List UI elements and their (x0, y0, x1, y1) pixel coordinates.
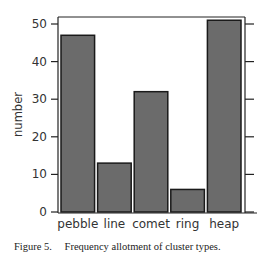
y-axis-label: number (11, 92, 25, 137)
bar-ring (171, 189, 205, 212)
bar-heap (207, 20, 241, 212)
figure-caption-text: Frequency allotment of cluster types. (65, 241, 221, 252)
bar-chart: 01020304050numberpebblelinecometringheap (0, 0, 268, 235)
x-tick-label: pebble (57, 217, 98, 231)
y-tick-label: 20 (32, 130, 47, 144)
bar-pebble (61, 35, 95, 212)
bar-comet (134, 92, 168, 212)
bar-line (98, 163, 132, 212)
x-tick-label: ring (176, 217, 200, 231)
y-tick-label: 50 (32, 17, 47, 31)
y-tick-label: 0 (39, 205, 47, 219)
chart-bars (61, 20, 241, 212)
y-tick-label: 40 (32, 55, 47, 69)
x-tick-label: heap (209, 217, 239, 231)
figure-label: Figure 5. (14, 241, 52, 252)
y-tick-label: 10 (32, 167, 47, 181)
x-tick-label: line (104, 217, 126, 231)
x-tick-label: comet (132, 217, 170, 231)
y-tick-label: 30 (32, 92, 47, 106)
figure-caption: Figure 5. Frequency allotment of cluster… (14, 241, 221, 252)
